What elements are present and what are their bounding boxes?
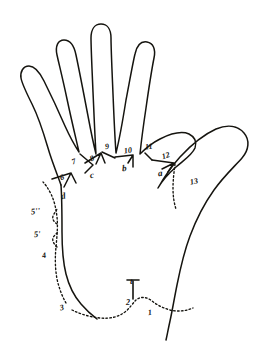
landmark-label-d: d <box>60 192 66 202</box>
landmark-marker-11 <box>145 153 152 160</box>
landmark-label-b: b <box>122 164 127 173</box>
wrist-crease-path <box>72 297 193 318</box>
ulnar-crease-squiggle-upper <box>53 208 57 224</box>
landmark-label-a: a <box>158 169 163 178</box>
thumb-web-crease-path <box>173 164 176 209</box>
landmark-label-10: 10 <box>123 146 132 155</box>
hand-landmark-figure: 12t345'5''6d78c910b1112a13 <box>0 0 277 342</box>
palm-ulnar-border-path <box>61 185 97 319</box>
landmark-marker-9 <box>102 152 115 158</box>
landmark-label-2: 2 <box>126 299 130 307</box>
ulnar-crease-squiggle-lower <box>53 231 58 247</box>
landmark-marker-12 <box>152 160 174 172</box>
landmark-label-11: 11 <box>145 143 153 152</box>
landmark-label-t: t <box>130 277 133 286</box>
hand-diagram-svg <box>0 0 277 342</box>
hand-outline-path <box>21 24 248 340</box>
landmark-label-5p: 5' <box>34 230 41 239</box>
landmark-label-13: 13 <box>189 177 198 186</box>
landmark-label-5pp: 5'' <box>31 207 41 216</box>
